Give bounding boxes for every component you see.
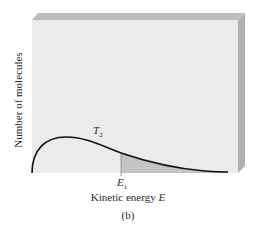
- curve-label-sub: 2: [99, 131, 103, 139]
- threshold-label-main: E: [117, 176, 124, 188]
- curve-label-t2: T2: [93, 124, 103, 139]
- panel-top-bevel: [32, 13, 245, 20]
- x-axis-label-variable: E: [158, 191, 165, 203]
- x-axis-label-text: Kinetic energy: [91, 191, 159, 203]
- y-axis-label: Number of molecules: [12, 52, 24, 147]
- threshold-label-e1: E1: [117, 176, 127, 191]
- energy-distribution-figure: Number of molecules T2 E1 Kinetic energy…: [0, 0, 256, 229]
- threshold-label-sub: 1: [124, 183, 128, 191]
- panel-side-bevel: [238, 13, 245, 173]
- panel-caption: (b): [122, 209, 135, 221]
- x-axis-label: Kinetic energy E: [91, 191, 165, 203]
- panel-face: [32, 20, 238, 173]
